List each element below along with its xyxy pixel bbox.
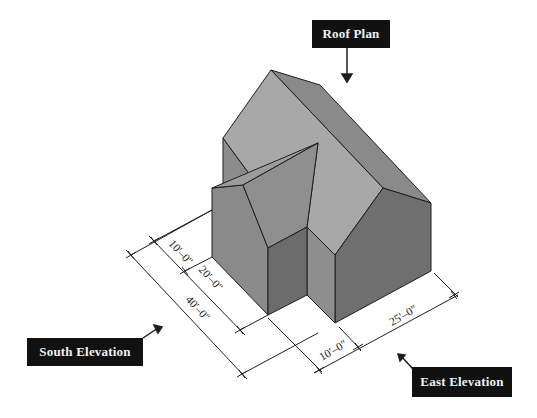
east-elevation-label: East Elevation <box>412 367 512 397</box>
east-elevation-arrow <box>398 354 413 369</box>
south-elevation-label: South Elevation <box>27 338 143 366</box>
dim-east-main-width: 25'–0" <box>387 302 419 327</box>
south-elevation-arrow <box>143 325 162 338</box>
dim-east-wing-width: 10'–0" <box>317 337 349 362</box>
dim-south-wing-depth: 20'–0" <box>197 263 226 293</box>
dim-south-wing-offset: 10'–0" <box>167 237 196 267</box>
roof-plan-arrow <box>342 48 352 82</box>
roof-plan-label: Roof Plan <box>312 20 390 48</box>
